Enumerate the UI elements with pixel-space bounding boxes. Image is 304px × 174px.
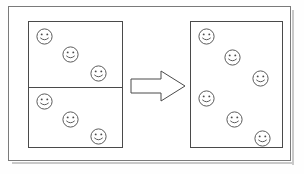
smiley-face-icon	[36, 93, 53, 110]
smiley-face-icon	[198, 28, 215, 45]
smiley-face-icon	[90, 128, 107, 145]
smiley-face-icon	[36, 28, 53, 45]
frame-shadow-right	[292, 10, 294, 165]
diagram-canvas	[0, 0, 304, 174]
smiley-face-icon	[198, 90, 215, 107]
right-arrow-icon	[130, 70, 186, 102]
smiley-face-icon	[226, 111, 243, 128]
smiley-face-icon	[254, 130, 271, 147]
frame-shadow-bottom	[12, 162, 294, 164]
smiley-face-icon	[252, 70, 269, 87]
smiley-face-icon	[62, 111, 79, 128]
smiley-face-icon	[224, 49, 241, 66]
box-divider-line	[28, 87, 123, 88]
smiley-face-icon	[62, 46, 79, 63]
smiley-face-icon	[90, 65, 107, 82]
